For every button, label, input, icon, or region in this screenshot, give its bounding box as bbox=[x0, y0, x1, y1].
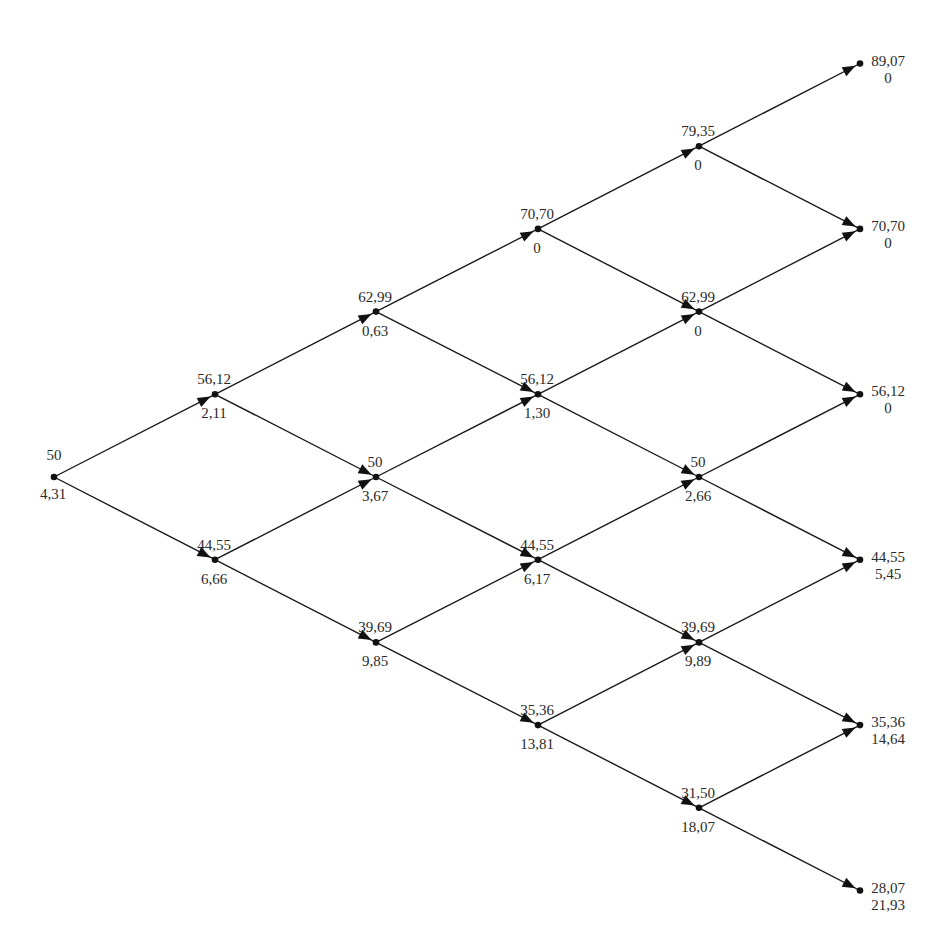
node-value: 2,11 bbox=[201, 405, 227, 421]
node-value: 0 bbox=[533, 240, 541, 256]
tree-node: 31,5018,07 bbox=[681, 785, 715, 835]
tree-node: 44,555,45 bbox=[857, 549, 905, 582]
arrowhead-icon bbox=[842, 712, 856, 722]
tree-edges bbox=[54, 64, 860, 891]
tree-node: 35,3614,64 bbox=[857, 714, 906, 747]
arrowhead-icon bbox=[842, 231, 856, 241]
edge-down bbox=[538, 229, 699, 312]
edge-up bbox=[215, 312, 376, 395]
node-dot-icon bbox=[535, 226, 542, 233]
node-value: 14,64 bbox=[871, 731, 905, 747]
node-dot-icon bbox=[857, 556, 864, 563]
node-value: 6,17 bbox=[524, 571, 551, 587]
edge-down bbox=[376, 477, 538, 560]
node-price: 70,70 bbox=[520, 206, 554, 222]
arrowhead-icon bbox=[842, 547, 856, 557]
node-price: 62,99 bbox=[358, 289, 392, 305]
tree-node: 44,556,66 bbox=[197, 537, 231, 587]
node-price: 62,99 bbox=[681, 289, 715, 305]
arrowhead-icon bbox=[681, 148, 695, 158]
node-dot-icon bbox=[535, 722, 542, 729]
tree-node: 39,699,85 bbox=[358, 619, 392, 669]
node-dot-icon bbox=[696, 805, 703, 812]
node-price: 50 bbox=[47, 447, 62, 463]
node-price: 31,50 bbox=[681, 785, 715, 801]
arrowhead-icon bbox=[842, 562, 856, 572]
tree-node: 70,700 bbox=[520, 206, 554, 256]
edge-down bbox=[538, 560, 699, 643]
edge-up bbox=[699, 229, 860, 312]
node-value: 0 bbox=[884, 400, 892, 416]
tree-node: 62,990,63 bbox=[358, 289, 392, 339]
node-value: 13,81 bbox=[520, 736, 554, 752]
node-price: 50 bbox=[368, 454, 383, 470]
node-dot-icon bbox=[373, 639, 380, 646]
node-value: 0 bbox=[884, 235, 892, 251]
node-dot-icon bbox=[51, 474, 58, 481]
node-dot-icon bbox=[212, 391, 219, 398]
node-price: 44,55 bbox=[871, 549, 905, 565]
node-price: 79,35 bbox=[681, 123, 715, 139]
arrowhead-icon bbox=[842, 878, 856, 888]
edge-down bbox=[376, 312, 538, 395]
node-dot-icon bbox=[535, 556, 542, 563]
edge-up bbox=[699, 560, 860, 643]
node-dot-icon bbox=[696, 308, 703, 315]
node-value: 2,66 bbox=[685, 488, 712, 504]
arrowhead-icon bbox=[842, 397, 856, 407]
node-value: 0,63 bbox=[362, 323, 388, 339]
edge-down bbox=[215, 394, 376, 477]
tree-node: 89,070 bbox=[857, 53, 906, 86]
node-value: 3,67 bbox=[362, 488, 389, 504]
tree-node: 62,990 bbox=[681, 289, 715, 339]
edge-down bbox=[699, 146, 860, 229]
edge-up bbox=[699, 725, 860, 808]
edge-down bbox=[699, 642, 860, 725]
edge-up bbox=[538, 477, 699, 560]
node-value: 0 bbox=[694, 157, 702, 173]
tree-node: 503,67 bbox=[362, 454, 389, 504]
node-price: 35,36 bbox=[520, 702, 554, 718]
node-dot-icon bbox=[857, 391, 864, 398]
node-price: 56,12 bbox=[197, 371, 231, 387]
edge-down bbox=[699, 312, 860, 395]
node-price: 50 bbox=[691, 454, 706, 470]
node-price: 44,55 bbox=[197, 537, 231, 553]
edge-up bbox=[376, 560, 538, 643]
edge-up bbox=[54, 394, 215, 477]
tree-node: 79,350 bbox=[681, 123, 715, 173]
node-price: 89,07 bbox=[871, 53, 905, 69]
edge-down bbox=[54, 477, 215, 560]
tree-node: 502,66 bbox=[685, 454, 712, 504]
arrowhead-icon bbox=[842, 727, 856, 737]
node-price: 70,70 bbox=[871, 218, 905, 234]
node-value: 0 bbox=[694, 323, 702, 339]
arrowhead-icon bbox=[681, 314, 695, 324]
node-value: 5,45 bbox=[875, 566, 901, 582]
node-value: 9,85 bbox=[362, 653, 388, 669]
node-value: 18,07 bbox=[681, 819, 715, 835]
node-dot-icon bbox=[857, 60, 864, 67]
node-dot-icon bbox=[373, 474, 380, 481]
edge-down bbox=[376, 642, 538, 725]
node-dot-icon bbox=[696, 639, 703, 646]
edge-up bbox=[215, 477, 376, 560]
edge-up bbox=[376, 229, 538, 312]
node-price: 44,55 bbox=[520, 537, 554, 553]
edge-down bbox=[699, 477, 860, 560]
node-price: 56,12 bbox=[520, 371, 554, 387]
node-value: 0 bbox=[884, 70, 892, 86]
binomial-tree-diagram: 504,3156,122,1144,556,6662,990,63503,673… bbox=[0, 0, 949, 951]
node-dot-icon bbox=[696, 474, 703, 481]
node-value: 4,31 bbox=[40, 486, 66, 502]
node-dot-icon bbox=[212, 556, 219, 563]
edge-up bbox=[699, 394, 860, 477]
edge-down bbox=[538, 394, 699, 477]
edge-up bbox=[699, 64, 860, 147]
node-value: 21,93 bbox=[871, 897, 905, 913]
tree-node: 35,3613,81 bbox=[520, 702, 554, 752]
edge-up bbox=[538, 312, 699, 395]
node-dot-icon bbox=[696, 143, 703, 150]
tree-node: 28,0721,93 bbox=[857, 880, 906, 913]
tree-node: 56,121,30 bbox=[520, 371, 554, 421]
